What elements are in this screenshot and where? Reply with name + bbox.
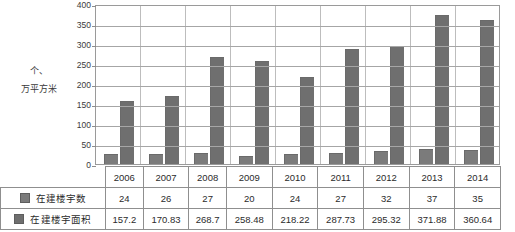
y-axis-tick-label: 300 (77, 41, 91, 50)
bar-2012-series-1 (374, 151, 388, 164)
bar-group (186, 6, 231, 164)
table-cell-2014-row-2: 360.64 (455, 209, 501, 230)
table-cell-2011-row-2: 287.73 (318, 209, 364, 230)
table-header-year-2010: 2010 (272, 167, 318, 188)
bar-2014-series-1 (464, 150, 478, 164)
gridline (96, 46, 499, 47)
table-header-year-2006: 2006 (106, 167, 144, 188)
table-row: 在建楼宇数242627202427323735 (1, 188, 501, 209)
legend-item-1[interactable]: 在建楼宇数 (1, 188, 106, 209)
bar-group (411, 6, 456, 164)
table-header-row: 200620072008200920102011201220132014 (1, 167, 501, 188)
table-cell-2009-row-2: 258.48 (226, 209, 272, 230)
table-cell-2014-row-1: 35 (455, 188, 501, 209)
y-axis-tickmark (92, 46, 96, 47)
table-header-year-2014: 2014 (455, 167, 501, 188)
table-cell-2007-row-2: 170.83 (143, 209, 189, 230)
table-cell-2010-row-2: 218.22 (272, 209, 318, 230)
gridline (96, 86, 499, 87)
y-axis-tick-label: 350 (77, 21, 91, 30)
bar-2010-series-1 (284, 154, 298, 164)
y-axis: 400350300250200150100500 (60, 0, 94, 172)
bar-2010-series-2 (300, 77, 314, 164)
y-axis-tickmark (92, 26, 96, 27)
bar-2006-series-1 (104, 154, 118, 164)
table-header-year-2008: 2008 (189, 167, 227, 188)
legend-swatch-icon (14, 214, 24, 224)
bar-group (366, 6, 411, 164)
table-header-year-2009: 2009 (226, 167, 272, 188)
bar-group (96, 6, 141, 164)
bar-2013-series-2 (435, 15, 449, 164)
y-axis-tick-label: 150 (77, 101, 91, 110)
table-cell-2011-row-1: 27 (318, 188, 364, 209)
bar-group (456, 6, 501, 164)
table-body: 在建楼宇数242627202427323735在建楼宇面积157.2170.83… (1, 188, 501, 230)
y-axis-tick-label: 50 (82, 141, 91, 150)
table-cell-2007-row-1: 26 (143, 188, 189, 209)
gridline (96, 106, 499, 107)
table-cell-2006-row-2: 157.2 (106, 209, 144, 230)
gridline (96, 126, 499, 127)
legend-label: 在建楼宇面积 (30, 212, 91, 226)
table-cell-2013-row-1: 37 (409, 188, 455, 209)
y-axis-tick-label: 100 (77, 121, 91, 130)
table-header-year-2007: 2007 (143, 167, 189, 188)
table-header-year-2012: 2012 (363, 167, 409, 188)
table-cell-2008-row-2: 268.7 (189, 209, 227, 230)
y-axis-tickmark (92, 106, 96, 107)
table-row: 在建楼宇面积157.2170.83268.7258.48218.22287.73… (1, 209, 501, 230)
bar-group (141, 6, 186, 164)
bar-2011-series-1 (329, 153, 343, 164)
data-table: 200620072008200920102011201220132014 在建楼… (0, 166, 501, 230)
bar-2013-series-1 (419, 149, 433, 164)
table-header-year-2013: 2013 (409, 167, 455, 188)
y-axis-tickmark (92, 126, 96, 127)
bar-group (321, 6, 366, 164)
table-cell-2012-row-1: 32 (363, 188, 409, 209)
bar-2009-series-1 (239, 156, 253, 164)
table-cell-2006-row-1: 24 (106, 188, 144, 209)
bar-2008-series-1 (194, 153, 208, 164)
bar-group (231, 6, 276, 164)
bar-2009-series-2 (255, 61, 269, 164)
table-corner-cell (1, 167, 106, 188)
y-axis-tickmark (92, 66, 96, 67)
legend-swatch-icon (20, 193, 30, 203)
y-axis-tickmark (92, 86, 96, 87)
legend-label: 在建楼宇数 (36, 191, 87, 205)
table-cell-2009-row-1: 20 (226, 188, 272, 209)
gridline (96, 26, 499, 27)
table-header-year-2011: 2011 (318, 167, 364, 188)
bar-2008-series-2 (210, 57, 224, 164)
y-axis-tick-label: 200 (77, 81, 91, 90)
table-cell-2012-row-2: 295.32 (363, 209, 409, 230)
y-axis-tick-label: 400 (77, 1, 91, 10)
bar-group (276, 6, 321, 164)
legend-item-2[interactable]: 在建楼宇面积 (1, 209, 106, 230)
plot-area (95, 5, 500, 165)
table-cell-2010-row-1: 24 (272, 188, 318, 209)
y-axis-tickmark (92, 6, 96, 7)
table-cell-2013-row-2: 371.88 (409, 209, 455, 230)
y-axis-tick-label: 250 (77, 61, 91, 70)
gridline (96, 66, 499, 67)
y-axis-tickmark (92, 146, 96, 147)
chart-figure: 个、 万平方米 400350300250200150100500 2006200… (0, 0, 515, 232)
bars-layer (96, 6, 499, 164)
bar-2007-series-1 (149, 154, 163, 164)
bar-2006-series-2 (120, 101, 134, 164)
gridline (96, 146, 499, 147)
table-cell-2008-row-1: 27 (189, 188, 227, 209)
bar-2014-series-2 (480, 20, 494, 164)
